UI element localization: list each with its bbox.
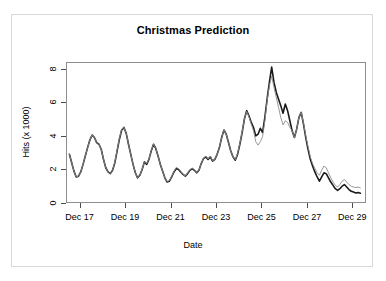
y-tick-label: 8 [48,66,58,71]
x-tick-label: Dec 25 [247,212,276,222]
series-layer [69,67,360,193]
chart-title: Christmas Prediction [0,24,386,36]
y-tick-mark [61,203,66,204]
plot-area [66,62,366,203]
x-tick-mark [125,203,126,208]
x-tick-mark [307,203,308,208]
x-tick-mark [171,203,172,208]
y-tick-label: 4 [48,133,58,138]
chart-screenshot: Christmas Prediction 02468 Dec 17Dec 19D… [0,0,386,281]
y-tick-mark [61,69,66,70]
x-tick-label: Dec 21 [156,212,185,222]
y-tick-label: 0 [48,200,58,205]
series-line-prediction [69,76,360,188]
x-tick-mark [80,203,81,208]
x-tick-label: Dec 19 [111,212,140,222]
y-axis-label: Hits (x 1000) [21,106,31,157]
series-line-actual [69,67,360,193]
x-tick-mark [261,203,262,208]
x-tick-label: Dec 29 [338,212,367,222]
y-tick-label: 6 [48,100,58,105]
x-axis-label: Date [0,240,386,250]
x-tick-label: Dec 27 [293,212,322,222]
y-tick-mark [61,102,66,103]
x-tick-label: Dec 17 [65,212,94,222]
x-tick-mark [352,203,353,208]
x-tick-mark [216,203,217,208]
y-tick-mark [61,169,66,170]
y-tick-label: 2 [48,167,58,172]
x-tick-label: Dec 23 [202,212,231,222]
y-tick-mark [61,136,66,137]
